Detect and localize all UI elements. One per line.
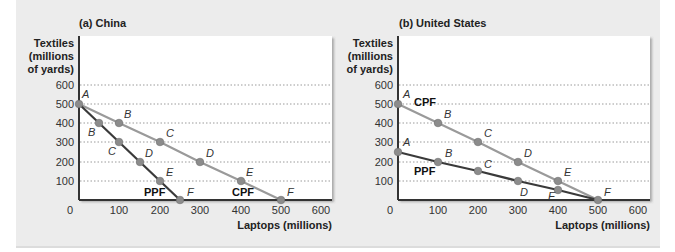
- x-tick-labels: 0 100 200 300 400 500 600: [387, 204, 647, 216]
- svg-text:100: 100: [56, 175, 74, 187]
- svg-text:300: 300: [509, 204, 527, 216]
- svg-text:C: C: [166, 127, 174, 139]
- svg-text:100: 100: [375, 175, 393, 187]
- cpf-label: CPF: [414, 96, 436, 108]
- y-tick-labels: 600 500 400 300 200 100: [375, 79, 393, 187]
- svg-text:500: 500: [56, 98, 74, 110]
- svg-text:(millions: (millions: [29, 50, 74, 62]
- svg-text:(millions: (millions: [348, 50, 393, 62]
- svg-text:C: C: [484, 158, 492, 170]
- svg-text:D: D: [145, 147, 153, 159]
- svg-text:200: 200: [151, 204, 169, 216]
- svg-text:300: 300: [191, 204, 209, 216]
- svg-text:400: 400: [56, 117, 74, 129]
- svg-text:200: 200: [56, 156, 74, 168]
- y-axis-label: Textiles (millions of yards): [347, 37, 394, 75]
- y-axis-label: Textiles (millions of yards): [28, 37, 75, 75]
- svg-text:500: 500: [589, 204, 607, 216]
- svg-text:E: E: [166, 166, 174, 178]
- svg-text:500: 500: [375, 98, 393, 110]
- chart-title: (a) China: [79, 17, 127, 29]
- svg-text:300: 300: [375, 136, 393, 148]
- svg-text:600: 600: [629, 204, 647, 216]
- y-tick-labels: 600 500 400 300 200 100: [56, 79, 74, 187]
- svg-text:400: 400: [232, 204, 250, 216]
- chart-title: (b) United States: [399, 17, 486, 29]
- svg-text:Textiles: Textiles: [353, 37, 393, 49]
- svg-text:B: B: [88, 126, 95, 138]
- svg-text:200: 200: [469, 204, 487, 216]
- ppf-label: PPF: [414, 165, 436, 177]
- svg-text:100: 100: [429, 204, 447, 216]
- svg-text:A: A: [81, 88, 89, 100]
- svg-text:of yards): of yards): [28, 63, 75, 75]
- svg-text:0: 0: [67, 204, 73, 216]
- svg-text:C: C: [108, 145, 116, 157]
- ppf-label: PPF: [144, 186, 166, 198]
- svg-text:400: 400: [375, 117, 393, 129]
- svg-text:B: B: [124, 108, 131, 120]
- svg-text:Textiles: Textiles: [34, 37, 74, 49]
- svg-text:600: 600: [56, 79, 74, 91]
- svg-text:B: B: [445, 147, 452, 159]
- svg-text:400: 400: [549, 204, 567, 216]
- svg-text:D: D: [206, 147, 214, 159]
- svg-text:600: 600: [375, 79, 393, 91]
- x-axis-label: Laptops (millions): [237, 219, 332, 231]
- svg-text:of yards): of yards): [347, 63, 394, 75]
- cpf-label: CPF: [232, 186, 254, 198]
- plot-area: [398, 36, 650, 200]
- svg-text:C: C: [484, 127, 492, 139]
- svg-text:300: 300: [56, 136, 74, 148]
- chart-china: (a) China Textiles (millions of yards) 6…: [28, 17, 333, 231]
- svg-text:B: B: [444, 108, 451, 120]
- svg-text:200: 200: [375, 156, 393, 168]
- svg-text:100: 100: [110, 204, 128, 216]
- svg-text:D: D: [524, 147, 532, 159]
- svg-text:E: E: [246, 166, 254, 178]
- x-axis-label: Laptops (millions): [555, 219, 650, 231]
- svg-text:600: 600: [312, 204, 330, 216]
- svg-text:0: 0: [387, 204, 393, 216]
- chart-united-states: (b) United States Textiles (millions of …: [347, 17, 651, 231]
- svg-text:A: A: [402, 88, 410, 100]
- svg-text:500: 500: [272, 204, 290, 216]
- figure-canvas: (a) China Textiles (millions of yards) 6…: [0, 0, 675, 252]
- plot-area: [79, 36, 332, 200]
- x-tick-labels: 0 100 200 300 400 500 600: [67, 204, 330, 216]
- svg-text:E: E: [548, 190, 556, 202]
- svg-text:A: A: [402, 136, 410, 148]
- svg-text:D: D: [520, 186, 528, 198]
- svg-text:E: E: [564, 166, 572, 178]
